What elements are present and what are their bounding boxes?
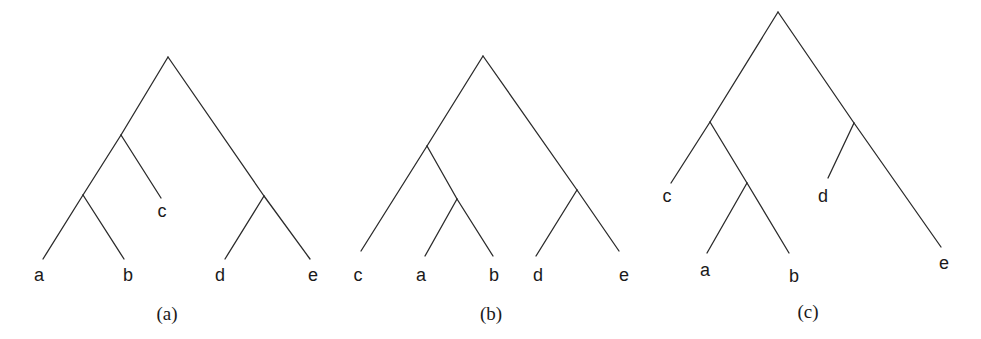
- tree-branch: [828, 123, 854, 178]
- tree-branch: [854, 123, 941, 247]
- tree-b-leaf-e: e: [619, 265, 629, 285]
- tree-branch: [121, 57, 168, 135]
- tree-branch: [707, 183, 747, 253]
- tree-b: c a b d e (b): [354, 56, 630, 325]
- tree-branch: [43, 195, 83, 259]
- tree-branch: [225, 196, 264, 259]
- tree-c-leaf-a: a: [700, 260, 711, 280]
- tree-b-leaf-c: c: [354, 265, 363, 285]
- tree-branch: [710, 12, 778, 122]
- tree-branch: [747, 183, 789, 253]
- tree-branch: [361, 146, 427, 251]
- tree-c: c a b d e (c): [663, 12, 950, 323]
- tree-a-leaf-e: e: [308, 265, 318, 285]
- tree-branch: [427, 146, 457, 199]
- tree-branch: [264, 196, 310, 259]
- tree-c-leaf-b: b: [789, 266, 799, 286]
- tree-branch: [577, 190, 619, 251]
- tree-a-caption: (a): [156, 303, 177, 325]
- tree-c-leaf-d: d: [818, 186, 828, 206]
- tree-c-edges: [671, 12, 941, 253]
- tree-branch: [778, 12, 854, 123]
- tree-b-leaf-b: b: [489, 265, 499, 285]
- tree-a-leaf-c: c: [158, 201, 167, 221]
- tree-a-edges: [43, 57, 310, 259]
- tree-branch: [121, 135, 161, 198]
- tree-a-leaf-b: b: [123, 265, 133, 285]
- tree-branch: [83, 135, 121, 195]
- phylogenetic-trees-figure: a b c d e (a) c a b d e (b) c a b d e (c…: [0, 0, 981, 339]
- tree-c-leaf-c: c: [663, 186, 672, 206]
- tree-branch: [425, 199, 457, 256]
- tree-b-leaf-a: a: [416, 265, 427, 285]
- tree-c-leaf-e: e: [939, 253, 949, 273]
- tree-b-edges: [361, 56, 619, 256]
- tree-c-caption: (c): [797, 301, 818, 323]
- tree-branch: [168, 57, 264, 196]
- tree-branch: [536, 190, 577, 256]
- tree-branch: [83, 195, 124, 259]
- tree-branch: [483, 56, 577, 190]
- tree-a: a b c d e (a): [34, 57, 318, 325]
- tree-a-leaf-d: d: [215, 265, 225, 285]
- tree-branch: [427, 56, 483, 146]
- tree-a-leaf-a: a: [34, 265, 45, 285]
- tree-branch: [457, 199, 493, 256]
- tree-b-leaf-d: d: [533, 265, 543, 285]
- tree-branch: [671, 122, 710, 183]
- tree-b-caption: (b): [480, 303, 502, 325]
- tree-branch: [710, 122, 747, 183]
